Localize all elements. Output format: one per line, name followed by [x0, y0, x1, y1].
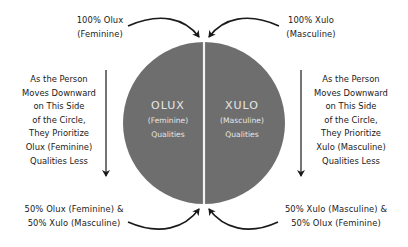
bottom-left-label-line2: 50% Xulo (Masculine): [18, 217, 130, 231]
top-left-label-line1: 100% Olux: [72, 14, 128, 28]
arrow-top-left: [128, 18, 199, 37]
bottom-right-label-line2: 50% Olux (Feminine): [278, 217, 394, 231]
left-side-line: Olux (Feminine): [14, 141, 104, 155]
right-side-text: As the Person Moves Downward on This Sid…: [304, 73, 398, 168]
right-side-line: They Prioritize: [304, 127, 398, 141]
left-side-line: Moves Downward: [14, 87, 104, 101]
arrow-bottom-left: [128, 209, 199, 229]
bottom-left-label: 50% Olux (Feminine) & 50% Xulo (Masculin…: [18, 203, 130, 230]
bottom-right-label: 50% Xulo (Masculine) & 50% Olux (Feminin…: [278, 203, 394, 230]
arrow-bottom-right: [209, 209, 278, 229]
left-half-caption: Qualities: [134, 128, 202, 142]
left-half-subtitle: (Feminine): [134, 114, 202, 128]
bottom-left-label-line1: 50% Olux (Feminine) &: [18, 203, 130, 217]
right-half-label: XULO (Masculine) Qualities: [207, 98, 277, 142]
left-side-line: They Prioritize: [14, 127, 104, 141]
right-side-line: Qualities Less: [304, 155, 398, 169]
left-side-line: on This Side: [14, 100, 104, 114]
bottom-right-label-line1: 50% Xulo (Masculine) &: [278, 203, 394, 217]
left-side-text: As the Person Moves Downward on This Sid…: [14, 73, 104, 168]
right-half-caption: Qualities: [207, 128, 277, 142]
top-left-label-line2: (Feminine): [72, 28, 128, 42]
top-right-label-line2: (Masculine): [280, 28, 342, 42]
left-side-line: Qualities Less: [14, 155, 104, 169]
left-half-title: OLUX: [134, 98, 202, 114]
top-left-label: 100% Olux (Feminine): [72, 14, 128, 41]
right-side-line: Xulo (Masculine): [304, 141, 398, 155]
top-right-label: 100% Xulo (Masculine): [280, 14, 342, 41]
arrow-top-right: [209, 18, 279, 37]
right-side-line: Moves Downward: [304, 87, 398, 101]
left-side-line: As the Person: [14, 73, 104, 87]
right-side-line: As the Person: [304, 73, 398, 87]
right-side-line: of the Circle,: [304, 114, 398, 128]
right-half-title: XULO: [207, 98, 277, 114]
top-right-label-line1: 100% Xulo: [280, 14, 342, 28]
right-side-line: on This Side: [304, 100, 398, 114]
left-side-line: of the Circle,: [14, 114, 104, 128]
right-half-subtitle: (Masculine): [207, 114, 277, 128]
left-half-label: OLUX (Feminine) Qualities: [134, 98, 202, 142]
